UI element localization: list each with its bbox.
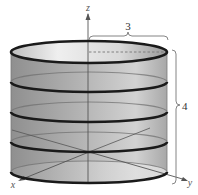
height-label: 4: [182, 100, 188, 112]
height-bracket: [172, 50, 180, 184]
radius-label: 3: [125, 20, 131, 32]
radius-bracket: [89, 32, 168, 40]
z-axis-label: z: [85, 2, 90, 13]
z-axis-arrow-icon: [86, 13, 91, 20]
x-axis-label: x: [10, 179, 16, 190]
cylinder-diagram: 3 4 z x y: [0, 0, 198, 195]
y-axis-label: y: [187, 177, 193, 188]
